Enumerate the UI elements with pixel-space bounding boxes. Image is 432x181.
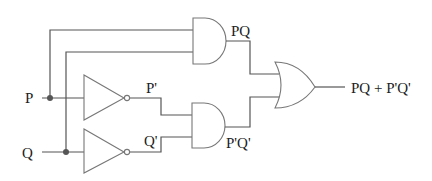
wire-p-prime-q-prime (225, 97, 279, 127)
label-input-q: Q (22, 145, 33, 161)
not-gate-p (84, 75, 130, 120)
logic-circuit-diagram: P Q P' Q' PQ P'Q' PQ + P'Q' (0, 0, 432, 181)
wire-q-prime (130, 137, 192, 152)
input-q-wires (42, 52, 193, 155)
input-p-wires (42, 30, 193, 101)
label-and-bottom-out: P'Q' (226, 135, 251, 151)
wire-pq (226, 41, 279, 74)
junction-q (63, 149, 69, 155)
label-input-p: P (25, 90, 33, 106)
not-gate-q (84, 129, 130, 173)
junction-p (47, 95, 53, 101)
label-and-top-out: PQ (231, 23, 250, 39)
wire-p-prime (130, 98, 192, 115)
and-gate-top (193, 18, 226, 64)
label-not-p-out: P' (146, 80, 157, 96)
or-gate (275, 62, 315, 108)
and-gate-bottom (192, 103, 225, 148)
label-output: PQ + P'Q' (351, 80, 411, 96)
label-not-q-out: Q' (144, 133, 158, 149)
